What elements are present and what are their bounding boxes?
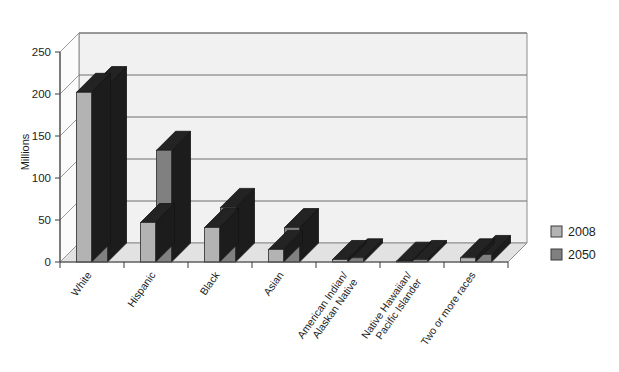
x-axis: WhiteHispanicBlackAsianAmerican Indian/A… xyxy=(60,262,508,348)
y-axis: 050100150200250 xyxy=(32,46,60,268)
y-tick-label: 200 xyxy=(32,88,51,100)
x-axis-category-label: Black xyxy=(197,269,222,298)
y-tick-label: 150 xyxy=(32,130,51,142)
x-axis-label-line: White xyxy=(68,269,93,298)
y-tick-label: 50 xyxy=(38,214,51,226)
x-axis-category-label: White xyxy=(68,269,93,298)
legend-label: 2008 xyxy=(568,225,596,239)
legend-swatch xyxy=(551,249,562,260)
x-axis-category-label: Hispanic xyxy=(125,269,158,309)
y-tick-label: 100 xyxy=(32,172,51,184)
y-tick-label: 0 xyxy=(45,256,51,268)
x-axis-category-label: Two or more races xyxy=(418,269,478,347)
legend-swatch xyxy=(551,226,562,237)
x-axis-label-line: Hispanic xyxy=(125,269,158,309)
chart-legend: 20082050 xyxy=(551,225,596,262)
x-axis-label-line: Asian xyxy=(261,269,286,298)
legend-item[interactable]: 2008 xyxy=(551,225,596,239)
legend-label: 2050 xyxy=(568,248,596,262)
y-axis-title: Millions xyxy=(19,133,31,170)
x-axis-category-label: American Indian/Alaskan Native xyxy=(295,269,360,347)
x-axis-label-line: Two or more races xyxy=(418,269,478,347)
chart-svg: 050100150200250 WhiteHispanicBlackAsianA… xyxy=(0,0,619,372)
y-tick-label: 250 xyxy=(32,46,51,58)
bar-3d xyxy=(77,73,111,262)
x-axis-label-line: Black xyxy=(197,269,222,298)
x-axis-category-label: Native Hawaiian/Pacific Islander xyxy=(359,269,424,348)
legend-item[interactable]: 2050 xyxy=(551,248,596,262)
x-axis-category-label: Asian xyxy=(261,269,286,298)
bar-chart: 050100150200250 WhiteHispanicBlackAsianA… xyxy=(0,0,619,372)
